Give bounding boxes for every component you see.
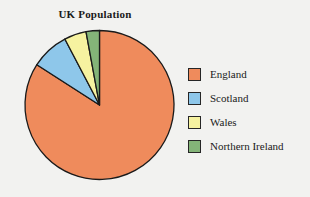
pie-plot-area xyxy=(22,26,178,184)
legend-label-england: England xyxy=(210,69,247,80)
legend-item-scotland[interactable]: Scotland xyxy=(188,86,308,110)
legend-item-england[interactable]: England xyxy=(188,62,308,86)
legend-swatch-northern-ireland xyxy=(188,140,201,153)
legend-swatch-england xyxy=(188,68,201,81)
legend-swatch-scotland xyxy=(188,92,201,105)
chart-title: UK Population xyxy=(0,8,190,20)
chart-legend: England Scotland Wales Northern Ireland xyxy=(188,62,308,158)
pie-chart-figure: UK Population England Scotland Wales Nor… xyxy=(0,0,310,197)
legend-swatch-wales xyxy=(188,116,201,129)
legend-item-northern-ireland[interactable]: Northern Ireland xyxy=(188,134,308,158)
legend-label-wales: Wales xyxy=(210,117,237,128)
pie-slice-group xyxy=(25,30,174,179)
legend-label-scotland: Scotland xyxy=(210,93,249,104)
legend-label-northern-ireland: Northern Ireland xyxy=(210,141,284,152)
legend-item-wales[interactable]: Wales xyxy=(188,110,308,134)
pie-svg xyxy=(22,26,178,184)
